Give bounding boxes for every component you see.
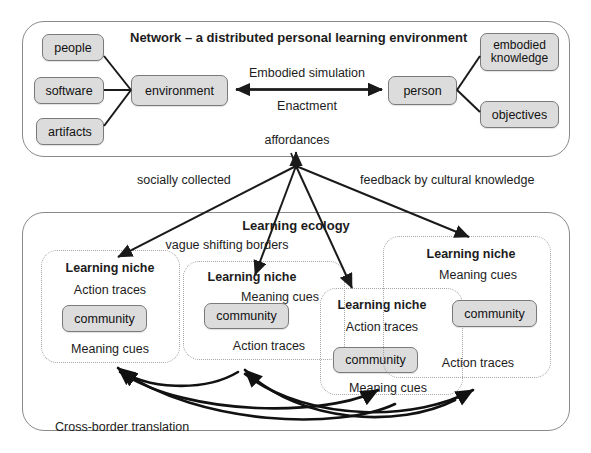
learning-niche-1-title: Learning niche	[66, 262, 155, 275]
feedback-label: feedback by cultural knowledge	[360, 174, 534, 187]
learning-niche-3-bottom-label: Meaning cues	[349, 382, 427, 395]
learning-niche-2-title: Learning niche	[208, 271, 297, 284]
node-embodied-knowledge: embodied knowledge	[480, 33, 559, 71]
learning-niche-2-community: community	[204, 303, 289, 329]
network-title: Network – a distributed personal learnin…	[130, 31, 467, 44]
node-people: people	[42, 34, 104, 61]
learning-niche-4-community-label: community	[464, 307, 524, 321]
node-software: software	[34, 77, 104, 104]
node-people-label: people	[54, 41, 92, 55]
learning-niche-4-title: Learning niche	[427, 248, 516, 261]
relation-enactment: Enactment	[277, 100, 337, 113]
node-objectives-label: objectives	[492, 108, 548, 122]
socially-collected-label: socially collected	[137, 174, 231, 187]
learning-niche-4-community: community	[452, 300, 537, 327]
node-objectives: objectives	[480, 101, 559, 128]
relation-embodied-simulation: Embodied simulation	[249, 67, 365, 80]
learning-niche-2-bottom-label: Action traces	[233, 340, 305, 353]
learning-niche-1-community: community	[62, 305, 147, 332]
node-embodied-knowledge-label: embodied knowledge	[485, 39, 554, 66]
learning-ecology-title: Learning ecology	[242, 219, 350, 232]
node-person-label: person	[403, 84, 441, 98]
learning-niche-2-top-label: Meaning cues	[241, 291, 319, 304]
vague-shifting-borders-label: vague shifting borders	[166, 239, 289, 252]
cross-border-translation-label: Cross-border translation	[55, 421, 189, 434]
node-artifacts-label: artifacts	[48, 125, 92, 139]
node-artifacts: artifacts	[36, 118, 104, 145]
learning-niche-1-community-label: community	[74, 312, 134, 326]
learning-niche-4-bottom-label: Action traces	[442, 357, 514, 370]
learning-niche-1-bottom-label: Meaning cues	[71, 343, 149, 356]
learning-niche-1-top-label: Action traces	[74, 284, 146, 297]
node-environment: environment	[131, 75, 228, 106]
learning-niche-2-community-label: community	[216, 309, 276, 323]
diagram-canvas: Network – a distributed personal learnin…	[0, 0, 591, 453]
affordances-label: affordances	[264, 134, 329, 147]
learning-niche-4-top-label: Meaning cues	[439, 269, 517, 282]
node-software-label: software	[45, 84, 92, 98]
node-environment-label: environment	[145, 84, 214, 98]
node-person: person	[388, 76, 457, 105]
